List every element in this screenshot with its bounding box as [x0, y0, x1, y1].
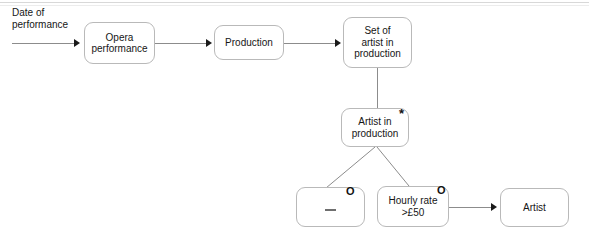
node-hourly-rate-label: Hourly rate >£50 — [386, 195, 441, 218]
diagram-canvas: Date of performance Opera performance Pr… — [0, 0, 589, 243]
node-artist[interactable]: Artist — [500, 188, 569, 227]
node-artist-label: Artist — [520, 202, 549, 214]
branch-line-right — [377, 147, 409, 186]
branch-line-left — [326, 147, 375, 188]
circle-marker-empty-condition: O — [346, 186, 355, 197]
dash-glyph-empty-condition — [325, 209, 336, 211]
connector-hourly-rate-to-artist — [449, 207, 491, 208]
arrowhead-hourly-rate-to-artist — [491, 203, 497, 211]
circle-marker-hourly-rate: O — [437, 185, 446, 196]
